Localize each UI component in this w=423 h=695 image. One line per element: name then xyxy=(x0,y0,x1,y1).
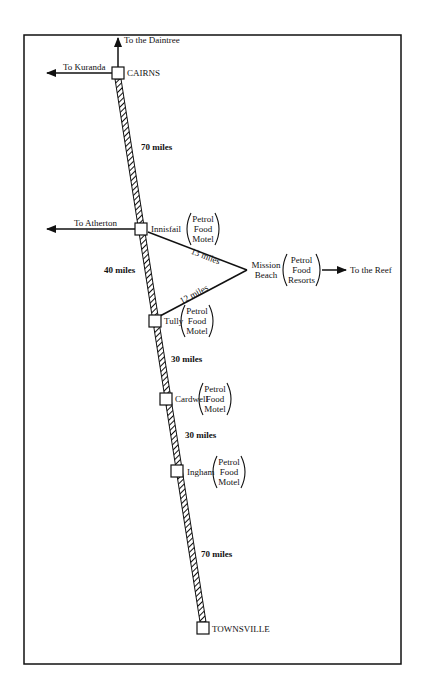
service-motel: Motel xyxy=(191,234,215,244)
town-marker-innisfail xyxy=(135,223,147,235)
service-resorts: Resorts xyxy=(286,275,317,285)
service-petrol: Petrol xyxy=(191,214,215,224)
label-to-reef: To the Reef xyxy=(350,265,392,275)
service-food: Food xyxy=(203,394,227,404)
service-food: Food xyxy=(191,224,215,234)
label-to-daintree: To the Daintree xyxy=(124,35,180,45)
label-to-kuranda: To Kuranda xyxy=(63,62,106,72)
town-marker-cairns xyxy=(112,67,124,79)
distance-innisfail-tully: 40 miles xyxy=(104,265,135,275)
service-petrol: Petrol xyxy=(185,306,209,316)
mission-beach-line1: Mission xyxy=(247,260,285,270)
town-marker-cardwell xyxy=(160,393,172,405)
services-mission-beach: Petrol Food Resorts xyxy=(286,255,317,285)
map-frame xyxy=(24,35,401,664)
distance-cairns-innisfail: 70 miles xyxy=(141,142,172,152)
town-marker-tully xyxy=(149,315,161,327)
services-cardwell: Petrol Food Motel xyxy=(203,384,227,414)
service-motel: Motel xyxy=(217,477,241,487)
town-label-innisfail: Innisfail xyxy=(151,224,181,234)
town-marker-ingham xyxy=(171,465,183,477)
town-label-cairns: CAIRNS xyxy=(127,68,160,78)
service-petrol: Petrol xyxy=(203,384,227,394)
town-label-townsville: TOWNSVILLE xyxy=(212,624,270,634)
services-innisfail: Petrol Food Motel xyxy=(191,214,215,244)
mission-beach-label: Mission Beach xyxy=(247,260,285,280)
town-label-ingham: Ingham xyxy=(187,467,215,477)
distance-cardwell-ingham: 30 miles xyxy=(185,430,216,440)
service-food: Food xyxy=(217,467,241,477)
town-label-tully: Tully xyxy=(164,316,183,326)
distance-ingham-townsville: 70 miles xyxy=(201,549,232,559)
town-marker-townsville xyxy=(197,622,209,634)
service-petrol: Petrol xyxy=(217,457,241,467)
service-food: Food xyxy=(286,265,317,275)
highway-road xyxy=(115,79,206,622)
service-petrol: Petrol xyxy=(286,255,317,265)
route-map xyxy=(0,0,423,695)
service-food: Food xyxy=(185,316,209,326)
service-motel: Motel xyxy=(203,404,227,414)
service-motel: Motel xyxy=(185,326,209,336)
mission-beach-line2: Beach xyxy=(247,270,285,280)
services-tully: Petrol Food Motel xyxy=(185,306,209,336)
label-to-atherton: To Atherton xyxy=(74,218,117,228)
distance-tully-cardwell: 30 miles xyxy=(171,354,202,364)
services-ingham: Petrol Food Motel xyxy=(217,457,241,487)
